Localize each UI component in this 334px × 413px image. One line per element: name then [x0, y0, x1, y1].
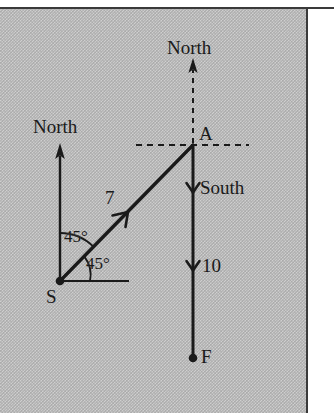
label-magnitude-7: 7 [105, 188, 115, 207]
vector-s-to-a [60, 145, 193, 281]
north-reference-at-s [55, 143, 65, 281]
figure-canvas: North North A South 10 7 45° 45° S F [0, 0, 334, 413]
label-point-a: A [199, 124, 213, 143]
north-reference-at-a [188, 58, 197, 143]
label-point-s: S [46, 287, 57, 306]
vector-diagram-svg [0, 0, 334, 413]
label-north-top: North [167, 38, 211, 57]
label-magnitude-10: 10 [202, 256, 221, 275]
vector-a-to-f [187, 145, 200, 357]
label-south: South [200, 178, 244, 197]
point-s-dot [56, 277, 65, 286]
label-north-left: North [33, 117, 77, 136]
label-angle-lower: 45° [86, 255, 110, 272]
label-angle-upper: 45° [64, 228, 88, 245]
label-point-f: F [201, 347, 212, 366]
point-f-dot [189, 354, 198, 363]
